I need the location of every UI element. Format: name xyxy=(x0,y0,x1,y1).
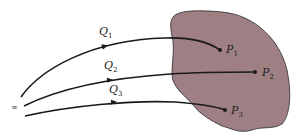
label-q1: Q1 xyxy=(99,25,113,40)
point-p3 xyxy=(223,108,227,112)
point-p1 xyxy=(218,48,222,52)
label-q2: Q2 xyxy=(104,59,118,74)
path-q3 xyxy=(25,102,225,116)
point-p2 xyxy=(253,70,257,74)
infinity-label: ∞ xyxy=(11,103,18,112)
arrow-q2-icon xyxy=(107,77,113,83)
diagram: ∞ Q1 Q2 Q3 P1 P2 P3 xyxy=(0,0,306,137)
label-q3: Q3 xyxy=(109,83,123,98)
